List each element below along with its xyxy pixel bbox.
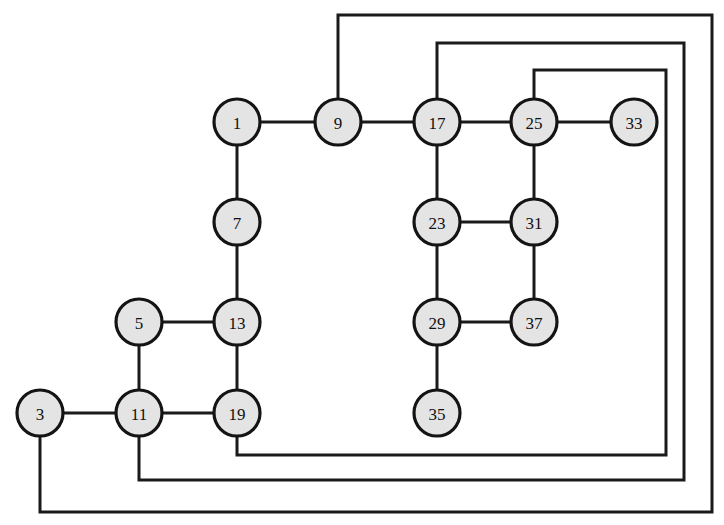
graph-node-3[interactable]: 3	[17, 390, 63, 436]
node-label-9: 9	[334, 114, 343, 133]
graph-node-31[interactable]: 31	[511, 199, 557, 245]
graph-node-29[interactable]: 29	[414, 299, 460, 345]
node-label-25: 25	[526, 114, 543, 133]
node-label-19: 19	[229, 405, 246, 424]
graph-canvas: 191725337233151329373531119	[0, 0, 724, 525]
node-label-23: 23	[429, 214, 446, 233]
node-layer: 191725337233151329373531119	[17, 99, 657, 436]
graph-node-11[interactable]: 11	[116, 390, 162, 436]
node-label-31: 31	[526, 214, 543, 233]
graph-node-23[interactable]: 23	[414, 199, 460, 245]
node-label-3: 3	[36, 405, 45, 424]
graph-node-25[interactable]: 25	[511, 99, 557, 145]
graph-node-7[interactable]: 7	[214, 199, 260, 245]
graph-node-35[interactable]: 35	[414, 390, 460, 436]
node-label-35: 35	[429, 405, 446, 424]
node-label-33: 33	[626, 114, 643, 133]
graph-node-33[interactable]: 33	[611, 99, 657, 145]
graph-node-1[interactable]: 1	[214, 99, 260, 145]
node-label-5: 5	[135, 314, 144, 333]
node-label-17: 17	[429, 114, 447, 133]
node-label-11: 11	[131, 405, 147, 424]
graph-node-9[interactable]: 9	[315, 99, 361, 145]
graph-node-17[interactable]: 17	[414, 99, 460, 145]
graph-diagram-root: 191725337233151329373531119	[0, 0, 724, 525]
node-label-29: 29	[429, 314, 446, 333]
node-label-13: 13	[229, 314, 246, 333]
node-label-37: 37	[526, 314, 544, 333]
graph-node-19[interactable]: 19	[214, 390, 260, 436]
graph-node-37[interactable]: 37	[511, 299, 557, 345]
node-label-1: 1	[233, 114, 242, 133]
node-label-7: 7	[233, 214, 242, 233]
graph-node-5[interactable]: 5	[116, 299, 162, 345]
edge-layer	[61, 122, 613, 413]
graph-node-13[interactable]: 13	[214, 299, 260, 345]
